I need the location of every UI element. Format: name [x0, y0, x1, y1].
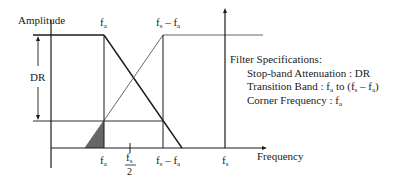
spec-stopband: Stop-band Attenuation : DR	[230, 67, 379, 81]
dr-arrowhead-bottom	[36, 115, 40, 120]
fs-half-numerator: fs	[126, 151, 133, 165]
filter-rolloff	[104, 35, 182, 148]
dr-arrowhead-top	[36, 36, 40, 41]
spec-transition: Transition Band : fa to (fs – fa)	[230, 80, 379, 94]
top-fs-minus-fa-label: fs – fa	[156, 16, 181, 30]
image-rolloff	[85, 35, 163, 148]
bottom-fa-label: fa	[100, 154, 108, 168]
filter-specifications: Filter Specifications: Stop-band Attenua…	[230, 53, 379, 107]
dr-label: DR	[30, 71, 46, 83]
fs-marker-arrow	[223, 8, 227, 13]
x-axis-label: Frequency	[257, 150, 304, 162]
top-fa-label: fa	[100, 16, 108, 30]
bottom-fs-label: fs	[222, 154, 229, 168]
spec-corner: Corner Frequency : fa	[230, 94, 379, 108]
specs-title: Filter Specifications:	[230, 53, 379, 67]
y-axis-label: Amplitude	[18, 14, 65, 26]
bottom-fs-minus-fa-label: fs – fa	[156, 154, 181, 168]
fs-half-denominator: 2	[127, 166, 132, 177]
